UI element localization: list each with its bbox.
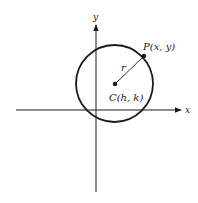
circle-diagram: y x P(x, y) r C(h, k) [0, 0, 198, 203]
radius-line [115, 56, 144, 84]
x-axis-label: x [185, 105, 190, 115]
point-p [142, 54, 146, 58]
diagram-canvas: y x P(x, y) r C(h, k) [0, 0, 198, 203]
center-point [113, 82, 117, 86]
center-label: C(h, k) [109, 92, 143, 103]
point-p-label: P(x, y) [142, 41, 175, 52]
radius-label: r [121, 62, 127, 73]
y-axis-label: y [92, 12, 99, 22]
